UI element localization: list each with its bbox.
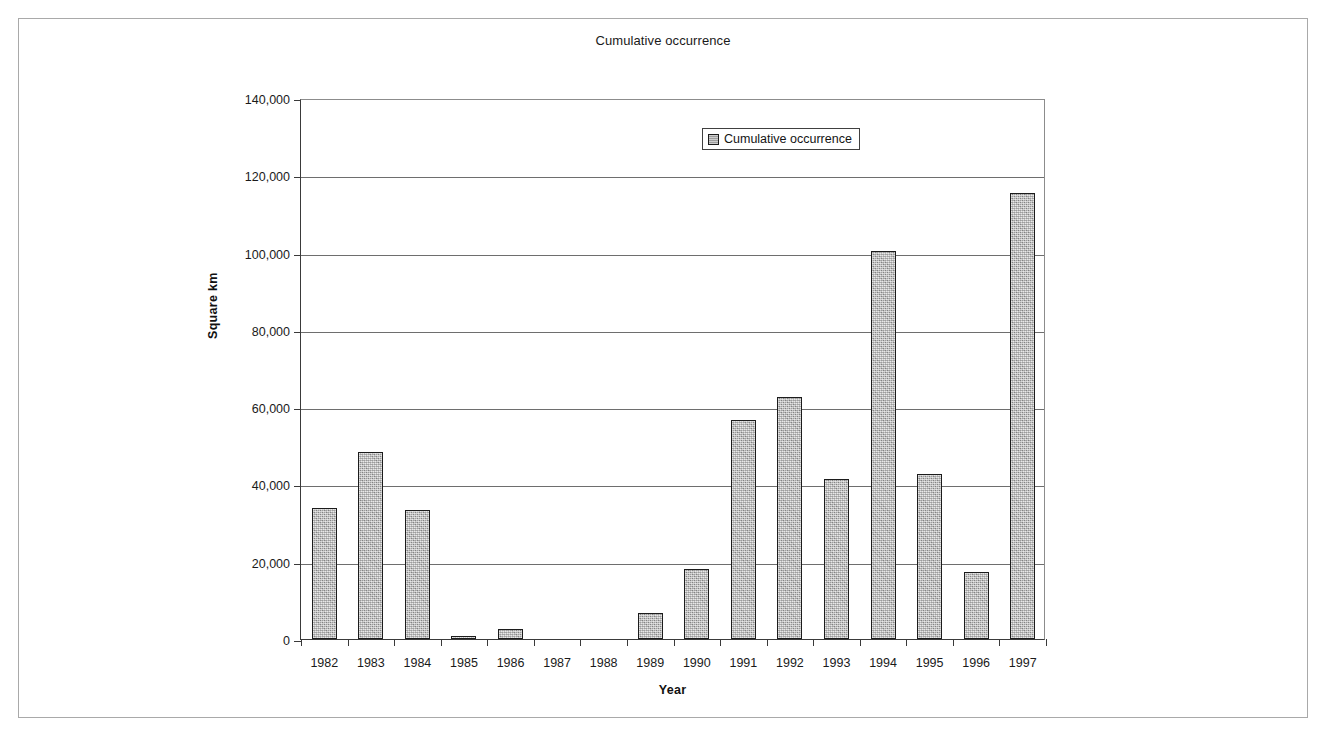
bar — [312, 508, 337, 639]
y-tick-mark — [294, 564, 301, 565]
bar — [451, 636, 476, 639]
x-tick-label: 1992 — [776, 656, 804, 670]
bar — [964, 572, 989, 639]
x-tick-mark — [813, 639, 814, 646]
bar — [1010, 193, 1035, 639]
x-tick-label: 1996 — [962, 656, 990, 670]
y-axis-title: Square km — [206, 272, 220, 339]
y-tick-mark — [294, 409, 301, 410]
x-tick-mark — [860, 639, 861, 646]
x-tick-label: 1982 — [310, 656, 338, 670]
y-tick-mark — [294, 255, 301, 256]
x-tick-label: 1986 — [497, 656, 525, 670]
x-tick-mark — [534, 639, 535, 646]
chart-page: Cumulative occurrence Square km Year 020… — [0, 0, 1326, 740]
y-tick-label: 60,000 — [252, 402, 290, 416]
x-tick-label: 1990 — [683, 656, 711, 670]
bar — [358, 452, 383, 639]
x-tick-mark — [906, 639, 907, 646]
gridline — [301, 332, 1044, 333]
bar — [917, 474, 942, 639]
x-tick-mark — [301, 639, 302, 646]
y-tick-mark — [294, 100, 301, 101]
x-tick-mark — [1046, 639, 1047, 646]
bar — [871, 251, 896, 639]
bar — [731, 420, 756, 639]
y-tick-mark — [294, 486, 301, 487]
x-tick-mark — [348, 639, 349, 646]
x-tick-mark — [674, 639, 675, 646]
x-tick-label: 1994 — [869, 656, 897, 670]
x-tick-label: 1993 — [823, 656, 851, 670]
x-tick-mark — [953, 639, 954, 646]
bar — [777, 397, 802, 639]
y-tick-label: 100,000 — [245, 248, 290, 262]
x-tick-label: 1991 — [729, 656, 757, 670]
x-tick-mark — [441, 639, 442, 646]
x-tick-mark — [999, 639, 1000, 646]
y-tick-mark — [294, 641, 301, 642]
chart-title: Cumulative occurrence — [0, 33, 1326, 48]
x-tick-label: 1988 — [590, 656, 618, 670]
x-tick-label: 1985 — [450, 656, 478, 670]
x-tick-mark — [720, 639, 721, 646]
x-tick-mark — [487, 639, 488, 646]
x-tick-mark — [627, 639, 628, 646]
legend-swatch-icon — [708, 134, 719, 145]
x-tick-label: 1983 — [357, 656, 385, 670]
plot-area: 020,00040,00060,00080,000100,000120,0001… — [300, 99, 1045, 640]
legend: Cumulative occurrence — [702, 128, 860, 150]
bar — [405, 510, 430, 639]
y-tick-label: 120,000 — [245, 170, 290, 184]
x-tick-label: 1995 — [916, 656, 944, 670]
bar — [824, 479, 849, 639]
bar — [684, 569, 709, 639]
x-tick-label: 1997 — [1009, 656, 1037, 670]
gridline — [301, 255, 1044, 256]
y-tick-label: 0 — [283, 634, 290, 648]
x-tick-mark — [767, 639, 768, 646]
x-tick-label: 1984 — [404, 656, 432, 670]
bar — [638, 613, 663, 639]
y-tick-mark — [294, 177, 301, 178]
gridline — [301, 409, 1044, 410]
y-tick-label: 40,000 — [252, 479, 290, 493]
bar — [498, 629, 523, 639]
legend-label: Cumulative occurrence — [724, 132, 852, 146]
x-tick-mark — [394, 639, 395, 646]
x-tick-label: 1987 — [543, 656, 571, 670]
y-tick-label: 20,000 — [252, 557, 290, 571]
x-axis-title: Year — [300, 683, 1045, 697]
y-tick-label: 140,000 — [245, 93, 290, 107]
x-tick-mark — [580, 639, 581, 646]
gridline — [301, 177, 1044, 178]
x-tick-label: 1989 — [636, 656, 664, 670]
y-tick-label: 80,000 — [252, 325, 290, 339]
y-tick-mark — [294, 332, 301, 333]
